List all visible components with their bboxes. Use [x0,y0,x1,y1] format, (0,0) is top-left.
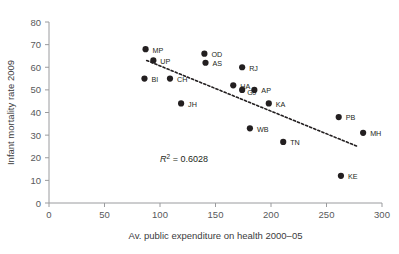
data-point-label-tn: TN [290,138,300,147]
x-axis-tick-label: 100 [152,209,168,220]
data-point-bi[interactable] [141,75,147,81]
y-axis-tick-label: 60 [30,62,41,73]
data-point-up[interactable] [150,57,156,63]
x-axis-tick-label: 0 [46,209,51,220]
data-point-label-ke: KE [348,172,358,181]
data-point-label-ap: AP [261,86,271,95]
data-point-pb[interactable] [336,114,342,120]
data-point-rj[interactable] [239,64,245,70]
data-point-label-ka: KA [276,100,286,109]
data-point-label-rj: RJ [249,64,258,73]
y-axis-tick-label: 80 [30,17,41,28]
x-axis-tick-label: 50 [99,209,110,220]
y-axis-tick-label: 50 [30,84,41,95]
data-point-label-mh: MH [370,129,381,138]
data-point-ka[interactable] [266,100,272,106]
data-point-label-ch: CH [177,75,187,84]
x-axis-tick-label: 150 [208,209,224,220]
x-axis-tick-label: 250 [319,209,335,220]
data-point-wb[interactable] [247,125,253,131]
data-point-label-jh: JH [188,100,197,109]
data-point-jh[interactable] [178,100,184,106]
y-axis-tick-label: 0 [36,198,41,209]
data-point-ha[interactable] [230,82,236,88]
data-point-label-od: OD [211,50,222,59]
y-axis-tick-label: 40 [30,107,41,118]
scatter-chart: 05010015020025030001020304050607080Av. p… [0,0,399,254]
x-axis-title: Av. public expenditure on health 2000–05 [129,230,303,241]
data-point-od[interactable] [201,51,207,57]
y-axis-tick-label: 30 [30,130,41,141]
y-axis-tick-label: 20 [30,152,41,163]
y-axis-title: Infant mortality rate 2009 [5,60,16,165]
data-point-as[interactable] [202,60,208,66]
y-axis-tick-label: 70 [30,39,41,50]
r-squared: R2 = 0.6028 [160,153,208,165]
data-point-label-pb: PB [346,113,356,122]
data-point-ch[interactable] [167,75,173,81]
x-axis-tick-label: 300 [374,209,390,220]
data-point-label-mp: MP [153,46,164,55]
data-point-ap[interactable] [251,87,257,93]
data-point-mh[interactable] [360,130,366,136]
data-point-label-bi: BI [151,75,158,84]
data-point-mp[interactable] [142,46,148,52]
x-axis-tick-label: 200 [263,209,279,220]
data-point-tn[interactable] [280,139,286,145]
data-point-gj[interactable] [239,87,245,93]
y-axis-tick-label: 10 [30,175,41,186]
data-point-label-up: UP [160,57,170,66]
chart-canvas: 05010015020025030001020304050607080Av. p… [0,0,399,254]
data-point-ke[interactable] [338,173,344,179]
data-point-label-as: AS [213,59,223,68]
data-point-label-wb: WB [257,125,269,134]
